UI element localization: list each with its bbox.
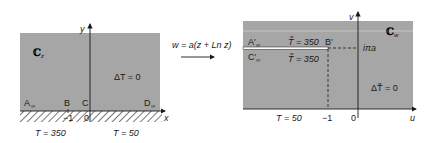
tick-label-minus-one-w: −1 [322, 113, 332, 123]
point-c-prime-subscript: ∞ [256, 57, 260, 63]
point-d-infinity: D [144, 98, 151, 108]
point-a-prime-infinity: A′ [248, 37, 256, 47]
point-c: C [82, 98, 89, 108]
tick-label-zero-w: 0 [351, 113, 356, 123]
mapping-formula: w = a(z + Ln z) [172, 40, 232, 50]
laplace-equation-z: ΔT = 0 [114, 72, 141, 82]
conformal-map-diagram: y x ℂ z ΔT = 0 A ∞ B C D ∞ −1 0 T = 350 … [0, 0, 432, 143]
imag-tick-label: iπa [363, 43, 376, 53]
point-a-prime-subscript: ∞ [256, 42, 260, 48]
u-axis-label: u [410, 113, 415, 123]
slit-upper-temp: T̃ = 350 [288, 36, 319, 47]
tick-label-minus-one: −1 [63, 113, 73, 123]
boundary-temp-right: T = 50 [113, 128, 139, 138]
z-plane-label: ℂ [33, 47, 41, 58]
z-plane-subscript: z [40, 53, 44, 59]
boundary-temp-bottom: T = 50 [276, 113, 302, 123]
mapping-arrow: w = a(z + Ln z) [172, 40, 232, 57]
boundary-temp-left: T = 350 [35, 128, 66, 138]
w-plane-panel: v u ℂ w A′ ∞ T̃ = 350 B′ C′ ∞ T̃ = 350 i… [243, 12, 416, 123]
y-axis-label: y [79, 24, 85, 34]
w-plane-subscript: w [394, 32, 399, 38]
x-axis-label: x [163, 113, 169, 123]
slit-lower-temp: T̃ = 350 [288, 53, 319, 64]
point-b-prime: B′ [325, 37, 333, 47]
z-plane-panel: y x ℂ z ΔT = 0 A ∞ B C D ∞ −1 0 T = 350 … [20, 24, 169, 138]
boundary-hatching [20, 111, 162, 122]
point-d-subscript: ∞ [151, 103, 155, 109]
laplace-equation-w: ΔT̃ = 0 [371, 83, 398, 93]
point-a-infinity: A [24, 98, 30, 108]
point-b: B [64, 98, 70, 108]
w-plane-label: ℂ [386, 26, 394, 37]
v-axis-label: v [349, 12, 354, 22]
point-a-subscript: ∞ [31, 103, 35, 109]
tick-label-zero: 0 [84, 113, 89, 123]
